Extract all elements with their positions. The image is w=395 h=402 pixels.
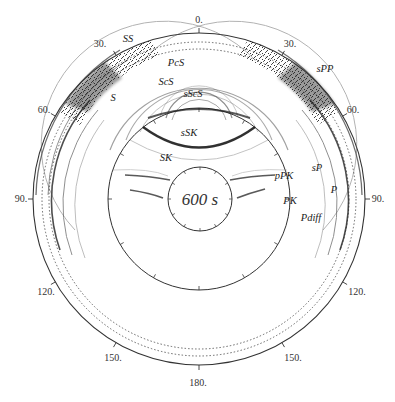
distance-label-90-right: 90. [372, 193, 385, 204]
phase-label-PcS: PcS [167, 57, 185, 68]
time-label: 600 s [182, 190, 219, 209]
distance-label-180: 180. [189, 377, 207, 388]
phase-label-P: P [330, 184, 338, 195]
distance-label-120-right: 120. [348, 286, 366, 297]
distance-label-150-right: 150. [284, 352, 302, 363]
distance-label-60-left: 60. [38, 104, 51, 115]
distance-label-60-right: 60. [347, 104, 360, 115]
distance-label-120-left: 120. [37, 286, 55, 297]
distance-label-90-left: 90. [15, 193, 28, 204]
distance-label-30-left: 30. [94, 38, 107, 49]
phase-label-PK: PK [282, 195, 297, 206]
phase-label-Pdiff: Pdiff [300, 212, 323, 223]
phase-label-sScS: sScS [183, 88, 203, 99]
distance-label-150-left: 150. [104, 352, 122, 363]
phase-label-pPK: pPK [274, 170, 295, 181]
seismic-wavefront-diagram: 0. 30. 30. 60. 60. 90. 90. 120. 120. 150… [0, 0, 395, 402]
distance-label-0: 0. [195, 14, 203, 25]
phase-label-sPP: sPP [317, 63, 335, 74]
distance-label-30-right: 30. [284, 38, 297, 49]
phase-label-SK: SK [160, 152, 173, 163]
phase-label-SS: SS [123, 33, 134, 44]
phase-label-sP: sP [312, 162, 323, 173]
phase-label-sSK: sSK [181, 127, 198, 138]
phase-label-ScS: ScS [158, 76, 174, 87]
phase-label-S: S [110, 92, 116, 103]
